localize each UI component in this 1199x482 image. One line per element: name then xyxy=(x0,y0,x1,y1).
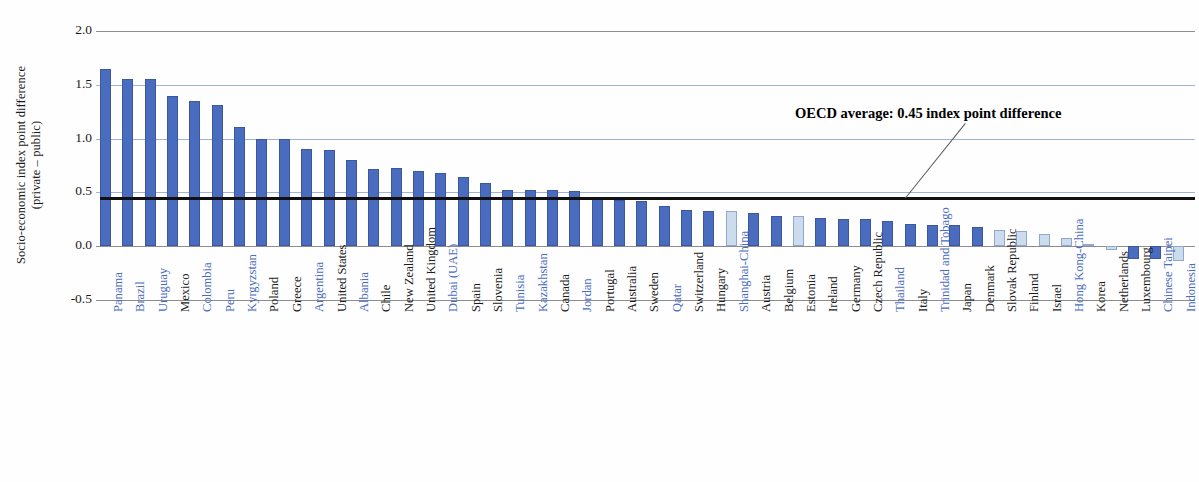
x-axis-label: Estonia xyxy=(805,274,817,312)
bar xyxy=(458,177,469,246)
x-axis-label: Greece xyxy=(291,276,303,312)
bar xyxy=(145,79,156,246)
bar xyxy=(927,225,938,247)
x-axis-label: United States xyxy=(336,244,348,312)
y-axis-tick-label: 2.0 xyxy=(60,22,92,38)
bar xyxy=(972,227,983,246)
bar xyxy=(815,218,826,246)
x-axis-label: Jordan xyxy=(581,278,593,312)
bar xyxy=(1061,238,1072,247)
x-axis-label: Luxembourg xyxy=(1140,247,1152,312)
x-axis-label: Czech Republic xyxy=(872,232,884,312)
x-axis-label: Finland xyxy=(1028,274,1040,312)
oecd-average-line xyxy=(100,197,1195,200)
bar xyxy=(636,201,647,246)
bar xyxy=(681,210,692,247)
bar xyxy=(100,69,111,247)
x-axis-label: Germany xyxy=(850,265,862,312)
y-axis-title: Socio-economic index point difference (p… xyxy=(14,20,44,310)
x-axis-label: Chile xyxy=(380,285,392,312)
x-axis-label: Switzerland xyxy=(693,252,705,312)
x-axis-label: Panama xyxy=(112,272,124,312)
x-axis-label: Peru xyxy=(224,289,236,312)
x-axis-label: Tunisia xyxy=(514,275,526,312)
bar xyxy=(703,211,714,247)
bar xyxy=(793,216,804,246)
bar xyxy=(726,211,737,247)
x-axis-label: Korea xyxy=(1095,281,1107,312)
y-axis-tick-label: 0.0 xyxy=(60,237,92,253)
y-axis-tick-label: -0.5 xyxy=(60,291,92,307)
bar xyxy=(860,219,871,246)
x-axis-label: Sweden xyxy=(648,272,660,312)
chart-page: Socio-economic index point difference (p… xyxy=(0,0,1199,482)
x-axis-label: Uruguay xyxy=(157,268,169,312)
x-axis-label: Colombia xyxy=(201,262,213,312)
y-axis-tick-label: 1.0 xyxy=(60,130,92,146)
bar xyxy=(838,219,849,246)
bar xyxy=(1039,234,1050,246)
x-axis-label: Portugal xyxy=(604,269,616,312)
x-axis-label: Israel xyxy=(1051,284,1063,312)
bar xyxy=(592,198,603,246)
x-axis-label: Austria xyxy=(760,275,772,312)
y-axis-title-line2: (private – public) xyxy=(29,20,44,310)
x-axis-label: Albania xyxy=(358,272,370,312)
bar xyxy=(167,96,178,247)
x-axis-label: Italy xyxy=(917,289,929,312)
y-axis-tick-label: 1.5 xyxy=(60,76,92,92)
x-axis-label: Ireland xyxy=(827,276,839,312)
x-axis-label: Australia xyxy=(626,266,638,312)
bar xyxy=(905,224,916,247)
bar xyxy=(368,169,379,246)
bar xyxy=(413,171,424,246)
x-axis-label: Denmark xyxy=(984,265,996,312)
bar xyxy=(212,105,223,246)
x-axis-label: Hong Kong-China xyxy=(1073,219,1085,312)
x-axis-label: Qatar xyxy=(671,284,683,312)
y-axis-title-container: Socio-economic index point difference (p… xyxy=(0,10,34,310)
bar xyxy=(256,139,267,247)
x-axis-label: Thailand xyxy=(894,267,906,312)
x-axis-label: Trinidad and Tobago xyxy=(939,207,951,312)
x-axis-label: New Zealand xyxy=(403,245,415,312)
x-axis-label: Brazil xyxy=(134,281,146,312)
x-axis-label: Slovenia xyxy=(492,268,504,312)
x-axis-label: Belgium xyxy=(783,269,795,312)
x-axis-label: United Kingdom xyxy=(425,227,437,312)
x-axis-label: Hungary xyxy=(715,268,727,312)
x-axis-label: Slovak Republic xyxy=(1006,228,1018,312)
x-axis-label: Netherlands xyxy=(1118,251,1130,312)
bar xyxy=(1106,246,1117,250)
bar xyxy=(122,79,133,246)
x-axis-label: Kazakhstan xyxy=(537,253,549,312)
x-axis-labels: PanamaBrazilUruguayMexicoColombiaPeruKyr… xyxy=(100,312,1195,460)
bar xyxy=(189,101,200,246)
bar xyxy=(234,127,245,246)
bar xyxy=(614,200,625,246)
bar xyxy=(480,183,491,246)
x-axis-label: Dubai (UAE) xyxy=(447,244,459,312)
x-axis-label: Poland xyxy=(268,277,280,312)
x-axis-label: Canada xyxy=(559,274,571,312)
bar xyxy=(346,160,357,246)
x-axis-label: Kyrgyzstan xyxy=(246,254,258,312)
bar xyxy=(391,168,402,247)
bar xyxy=(771,216,782,246)
x-axis-label: Shanghai-China xyxy=(738,231,750,312)
x-axis-label: Indonesia xyxy=(1185,263,1197,312)
bar xyxy=(659,206,670,246)
y-axis-title-line1: Socio-economic index point difference xyxy=(14,66,28,264)
y-axis-tick-label: 0.5 xyxy=(60,183,92,199)
oecd-average-label: OECD average: 0.45 index point differenc… xyxy=(795,105,1061,122)
x-axis-label: Spain xyxy=(470,283,482,312)
bar xyxy=(279,139,290,247)
x-axis-label: Mexico xyxy=(179,274,191,312)
x-axis-label: Chinese Taipei xyxy=(1162,237,1174,312)
bar xyxy=(994,230,1005,246)
bars-layer xyxy=(100,20,1193,310)
x-axis-label: Japan xyxy=(961,283,973,312)
x-axis-label: Argentina xyxy=(313,262,325,312)
